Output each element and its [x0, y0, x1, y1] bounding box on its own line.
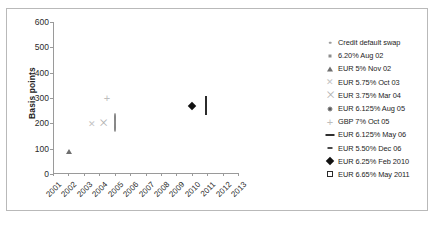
x-axis-tick-mark — [84, 173, 85, 176]
y-axis-tick-label: 400 — [35, 68, 49, 78]
data-point: ⨉ — [100, 120, 107, 127]
y-axis-tick-mark — [50, 47, 53, 48]
legend-marker-icon — [322, 49, 338, 62]
legend-item-label: EUR 5% Nov 02 — [338, 64, 391, 73]
legend-item[interactable]: ⨉EUR 3.75% Mar 04 — [322, 89, 428, 102]
legend-marker-icon — [322, 155, 338, 168]
y-axis-tick-label: 300 — [35, 93, 49, 103]
legend-item[interactable]: Credit default swap — [322, 36, 428, 49]
plot-area: 6005004003002001000 20012002200320042005… — [53, 22, 238, 174]
y-axis-tick-label: 600 — [35, 17, 49, 27]
legend-marker-icon — [322, 142, 338, 155]
legend-item[interactable]: EUR 6.125% May 06 — [322, 128, 428, 141]
legend-marker-icon — [322, 168, 338, 181]
y-axis-tick-label: 100 — [35, 144, 49, 154]
x-axis-tick-mark — [115, 173, 116, 176]
chart-figure: Basis points 6005004003002001000 2001200… — [0, 0, 434, 225]
legend-item-label: EUR 6.125% Aug 05 — [338, 104, 405, 113]
data-point: ✕ — [88, 120, 96, 127]
legend-item-label: EUR 3.75% Mar 04 — [338, 91, 401, 100]
legend-marker-icon — [322, 36, 338, 49]
legend-item-label: EUR 6.25% Feb 2010 — [338, 157, 409, 166]
legend-marker-icon — [322, 128, 338, 141]
x-axis-tick-mark — [53, 173, 54, 176]
x-axis-tick-mark — [68, 173, 69, 176]
legend-item-label: 6.20% Aug 02 — [338, 51, 383, 60]
x-axis-tick-mark — [238, 173, 239, 176]
legend-marker-icon — [322, 62, 338, 75]
y-axis-tick-mark — [50, 149, 53, 150]
y-axis-tick-label: 200 — [35, 118, 49, 128]
legend-item-label: EUR 6.65% May 2011 — [338, 170, 410, 179]
y-axis-tick-label: 0 — [44, 169, 49, 179]
legend-marker-icon: ✕ — [322, 76, 338, 89]
legend-item[interactable]: EUR 6.25% Feb 2010 — [322, 155, 428, 168]
legend-marker-icon — [322, 102, 338, 115]
legend-item-label: Credit default swap — [338, 38, 400, 47]
legend-marker-icon: ⨉ — [322, 89, 338, 102]
legend-item[interactable]: EUR 6.65% May 2011 — [322, 168, 428, 181]
y-axis-tick-label: 500 — [35, 42, 49, 52]
x-axis-tick-mark — [223, 173, 224, 176]
legend-item[interactable]: EUR 5% Nov 02 — [322, 62, 428, 75]
y-axis-tick-mark — [50, 123, 53, 124]
y-axis-tick-mark — [50, 22, 53, 23]
y-axis-tick-mark — [50, 98, 53, 99]
legend-item[interactable]: ✕EUR 5.75% Oct 03 — [322, 76, 428, 89]
legend-item[interactable]: 6.20% Aug 02 — [322, 49, 428, 62]
y-axis-tick-mark — [50, 73, 53, 74]
legend-item-label: GBP 7% Oct 05 — [338, 117, 389, 126]
legend-item[interactable]: EUR 5.50% Dec 06 — [322, 142, 428, 155]
y-axis-line — [53, 22, 54, 174]
legend-item-label: EUR 5.75% Oct 03 — [338, 78, 400, 87]
x-axis-tick-mark — [176, 173, 177, 176]
legend-item-label: EUR 6.125% May 06 — [338, 130, 406, 139]
chart-legend: Credit default swap6.20% Aug 02EUR 5% No… — [322, 36, 428, 181]
x-axis-tick-mark — [99, 173, 100, 176]
x-axis-tick-mark — [207, 173, 208, 176]
legend-item[interactable]: EUR 6.125% Aug 05 — [322, 102, 428, 115]
x-axis-tick-mark — [130, 173, 131, 176]
data-point: + — [104, 95, 110, 102]
legend-marker-icon: + — [322, 115, 338, 128]
legend-item[interactable]: +GBP 7% Oct 05 — [322, 115, 428, 128]
x-axis-tick-mark — [192, 173, 193, 176]
legend-item-label: EUR 5.50% Dec 06 — [338, 144, 401, 153]
x-axis-tick-mark — [161, 173, 162, 176]
x-axis-tick-mark — [146, 173, 147, 176]
